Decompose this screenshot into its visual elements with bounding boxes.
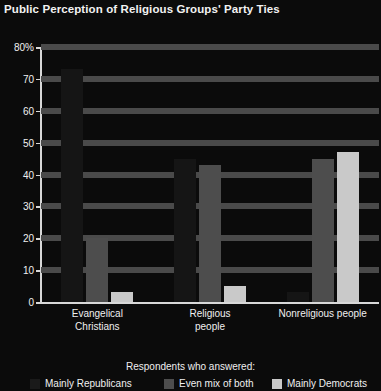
y-tick-label: 10: [23, 265, 34, 276]
plot-area: [41, 47, 379, 302]
legend-swatch-icon: [272, 379, 282, 389]
legend-label: Even mix of both: [179, 378, 253, 389]
legend-swatch-icon: [30, 379, 40, 389]
bar: [312, 159, 334, 302]
y-tick-label: 30: [23, 201, 34, 212]
bar: [199, 165, 221, 302]
x-axis-label-line: Nonreligious people: [266, 307, 379, 320]
legend-item[interactable]: Even mix of both: [164, 378, 253, 389]
bar: [224, 286, 246, 302]
x-axis-line: [40, 302, 379, 304]
y-tick-label: 80%: [14, 42, 34, 53]
gridline: [41, 76, 379, 82]
bar: [174, 159, 196, 302]
gridline: [41, 140, 379, 146]
y-axis-ticks: 01020304050607080%: [0, 47, 41, 303]
bar: [287, 292, 309, 302]
y-tick-label: 40: [23, 169, 34, 180]
x-axis-label: Religiouspeople: [154, 307, 267, 333]
legend-label: Mainly Republicans: [45, 378, 132, 389]
legend-swatch-icon: [164, 379, 174, 389]
y-tick-label: 60: [23, 105, 34, 116]
gridline: [41, 108, 379, 114]
chart-container: Public Perception of Religious Groups' P…: [0, 0, 381, 391]
legend-item[interactable]: Mainly Democrats: [272, 378, 367, 389]
bar: [86, 238, 108, 302]
bar: [61, 69, 83, 302]
gridline: [41, 44, 379, 50]
y-tick-label: 20: [23, 233, 34, 244]
legend-label: Mainly Democrats: [287, 378, 367, 389]
legend: Mainly RepublicansEven mix of bothMainly…: [0, 378, 381, 391]
x-axis-label: EvangelicalChristians: [41, 307, 154, 333]
x-axis-labels: EvangelicalChristiansReligiouspeopleNonr…: [41, 307, 379, 347]
legend-title: Respondents who answered:: [0, 361, 381, 372]
bar: [337, 152, 359, 302]
bar: [111, 292, 133, 302]
x-axis-label-line: Evangelical: [41, 307, 154, 320]
x-axis-label-line: people: [154, 320, 267, 333]
legend-item[interactable]: Mainly Republicans: [30, 378, 132, 389]
y-tick-label: 0: [28, 297, 34, 308]
x-axis-label-line: Religious: [154, 307, 267, 320]
y-tick-label: 50: [23, 137, 34, 148]
x-axis-label: Nonreligious people: [266, 307, 379, 320]
x-axis-label-line: Christians: [41, 320, 154, 333]
chart-title: Public Perception of Religious Groups' P…: [4, 3, 280, 15]
y-tick-label: 70: [23, 73, 34, 84]
